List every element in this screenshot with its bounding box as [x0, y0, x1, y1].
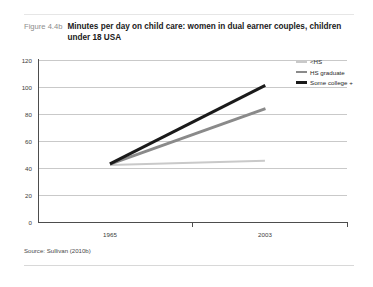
y-axis-tick-label: 40 — [12, 165, 32, 172]
chart-series-line — [110, 107, 266, 165]
legend-item-hs-graduate: HS graduate — [296, 68, 353, 77]
chart-plot-area: 02040608010012019652003 — [0, 0, 373, 287]
legend-swatch-icon — [296, 81, 307, 84]
bottom-divider — [24, 265, 354, 266]
chart-series-line — [110, 160, 265, 166]
source-note: Source: Sullivan (2010b) — [24, 247, 91, 254]
y-axis-tick-label: 120 — [12, 57, 32, 64]
y-axis-tick-label: 20 — [12, 192, 32, 199]
y-gridline — [38, 168, 347, 169]
y-gridline — [38, 141, 347, 142]
y-axis-line — [38, 59, 39, 223]
legend-item-label: Some college + — [310, 78, 353, 87]
y-axis-tick-label: 100 — [12, 84, 32, 91]
figure-card: Figure 4.4b Minutes per day on child car… — [0, 0, 373, 287]
legend-item-hs-less: <HS — [296, 57, 353, 66]
chart-legend: <HS HS graduate Some college + — [296, 57, 353, 89]
chart-series-line — [109, 84, 265, 165]
y-axis-tick-label: 60 — [12, 138, 32, 145]
legend-item-label: HS graduate — [310, 68, 345, 77]
legend-item-some-college: Some college + — [296, 78, 353, 87]
legend-swatch-icon — [296, 71, 307, 74]
x-axis-tick-label: 2003 — [258, 231, 272, 238]
x-axis-tick-label: 1965 — [103, 231, 117, 238]
x-axis-tick — [192, 222, 193, 227]
y-axis-tick-label: 80 — [12, 111, 32, 118]
legend-item-label: <HS — [310, 57, 322, 66]
y-axis-tick-label: 0 — [12, 219, 32, 226]
x-axis-tick — [347, 222, 348, 227]
y-gridline — [38, 114, 347, 115]
legend-swatch-icon — [296, 61, 307, 63]
y-gridline — [38, 195, 347, 196]
